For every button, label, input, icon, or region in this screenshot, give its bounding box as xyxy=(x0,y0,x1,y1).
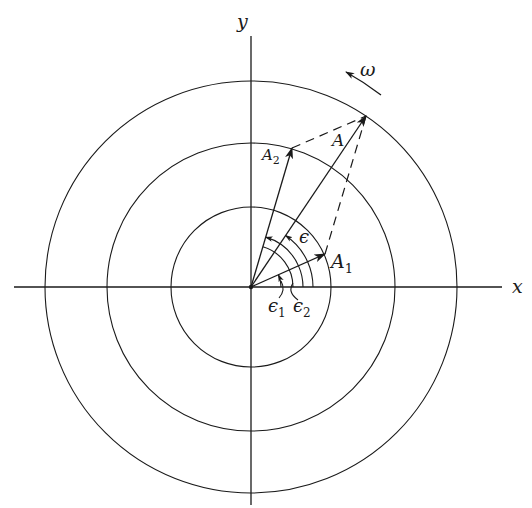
omega-label: ω xyxy=(360,58,376,80)
y-axis-label: y xyxy=(236,10,248,32)
epsilon1-label: ϵ1 xyxy=(268,295,286,320)
vector-a2 xyxy=(251,148,292,287)
axes: x y xyxy=(14,10,523,505)
labels: A A2 A1 ϵ ϵ1 ϵ2 xyxy=(260,130,353,320)
vector-a-label: A xyxy=(330,130,344,150)
epsilon2-arc-ext-inner xyxy=(299,266,304,287)
epsilon2-arc xyxy=(263,247,293,287)
vector-a1-label: A1 xyxy=(329,250,353,276)
vector-a2-label: A2 xyxy=(260,146,280,167)
epsilon2-label: ϵ2 xyxy=(293,295,311,320)
rotation-indicator: ω xyxy=(346,58,381,95)
epsilon2-arc-ext-outer xyxy=(308,262,313,287)
epsilon-label: ϵ xyxy=(299,226,309,247)
epsilon1-arc xyxy=(278,275,281,287)
origin-dot xyxy=(249,285,253,289)
x-axis-label: x xyxy=(512,275,523,297)
phasor-diagram: x y A A2 A1 ϵ ϵ1 xyxy=(0,0,532,508)
